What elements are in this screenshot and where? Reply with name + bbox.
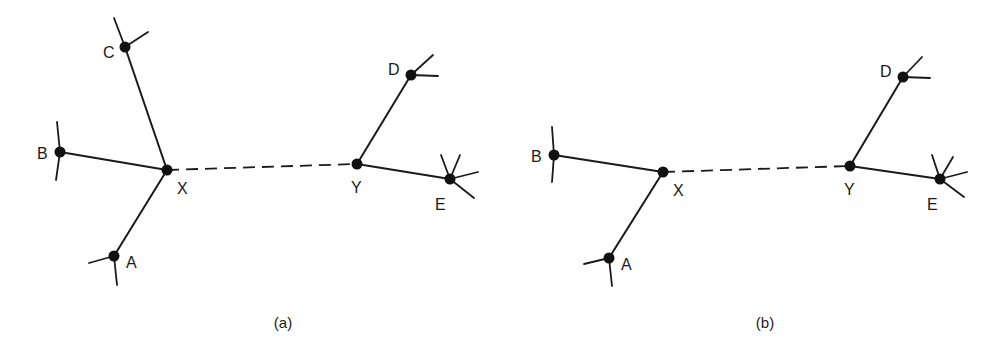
node-a (604, 253, 615, 264)
node-b (55, 147, 66, 158)
node-label-b: B (37, 145, 48, 162)
node-c (120, 42, 131, 53)
edge-y-d (850, 77, 903, 166)
panel-b: BXAYDE(b) (531, 57, 967, 331)
edge-y-e (850, 166, 940, 179)
node-label-d: D (880, 63, 892, 80)
node-label-a: A (621, 256, 632, 273)
edge-y-d (357, 75, 411, 164)
node-e (445, 174, 456, 185)
edge-a-x (609, 172, 663, 258)
node-label-d: D (388, 61, 400, 78)
edge-b-x (554, 155, 663, 172)
node-d (898, 72, 909, 83)
node-x (658, 167, 669, 178)
node-label-x: X (177, 180, 188, 197)
node-y (352, 159, 363, 170)
node-label-y: Y (351, 179, 362, 196)
node-y (845, 161, 856, 172)
tree-diagram-figure: CBXAYDE(a) BXAYDE(b) (0, 0, 1008, 340)
node-label-y: Y (844, 181, 855, 198)
node-e (935, 174, 946, 185)
panel-a: CBXAYDE(a) (37, 18, 478, 331)
node-label-x: X (673, 182, 684, 199)
node-label-c: C (103, 44, 115, 61)
edge-a-x (114, 170, 167, 256)
node-b (549, 150, 560, 161)
edge-c-x (125, 47, 167, 170)
node-label-e: E (435, 196, 446, 213)
node-x (162, 165, 173, 176)
node-label-a: A (126, 254, 137, 271)
edge-x-y-dashed (167, 164, 357, 170)
edge-x-y-dashed (663, 166, 850, 172)
node-a (109, 251, 120, 262)
edge-y-e (357, 164, 450, 179)
diagram-canvas: CBXAYDE(a) BXAYDE(b) (0, 0, 1008, 340)
edge-b-x (60, 152, 167, 170)
node-label-b: B (531, 148, 542, 165)
panel-caption-a: (a) (274, 314, 292, 331)
panel-caption-b: (b) (756, 314, 774, 331)
node-label-e: E (927, 196, 938, 213)
node-d (406, 70, 417, 81)
